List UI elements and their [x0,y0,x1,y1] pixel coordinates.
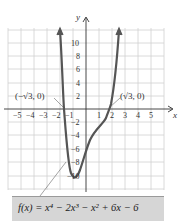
function-graph: y x 10 8 6 4 2 −2 −4 −6 −8 −10 −5 −4 −3 … [0,0,189,222]
y-tick-8: 8 [76,52,80,61]
y-tick-neg10: −10 [67,172,80,181]
x-tick-1: 1 [97,111,101,120]
left-root-leader [54,98,63,107]
y-axis-label: y [75,12,80,22]
x-tick-neg4: −4 [26,111,35,120]
x-tick-neg5: −5 [13,111,22,120]
x-tick-neg2: −2 [52,111,61,120]
y-tick-neg4: −4 [71,131,80,140]
x-tick-neg3: −3 [39,111,48,120]
x-tick-2: 2 [110,111,114,120]
y-tick-2: 2 [76,92,80,101]
right-root-label: (√3, 0) [120,91,144,101]
y-tick-6: 6 [76,65,80,74]
function-formula: f(x) = x⁴ − 2x³ − x² + 6x − 6 [18,202,139,213]
formula-box: f(x) = x⁴ − 2x³ − x² + 6x − 6 [12,196,164,221]
left-root-label: (−√3, 0) [15,91,45,101]
y-tick-neg8: −8 [71,158,80,167]
x-tick-3: 3 [123,111,127,120]
y-tick-4: 4 [76,79,80,88]
x-axis-label: x [172,110,177,120]
function-curve [60,30,119,177]
formula-leader [40,162,66,196]
y-tick-neg6: −6 [71,145,80,154]
y-tick-10: 10 [71,39,79,48]
x-tick-neg1: −1 [65,111,74,120]
x-tick-5: 5 [149,111,153,120]
x-tick-4: 4 [136,111,140,120]
